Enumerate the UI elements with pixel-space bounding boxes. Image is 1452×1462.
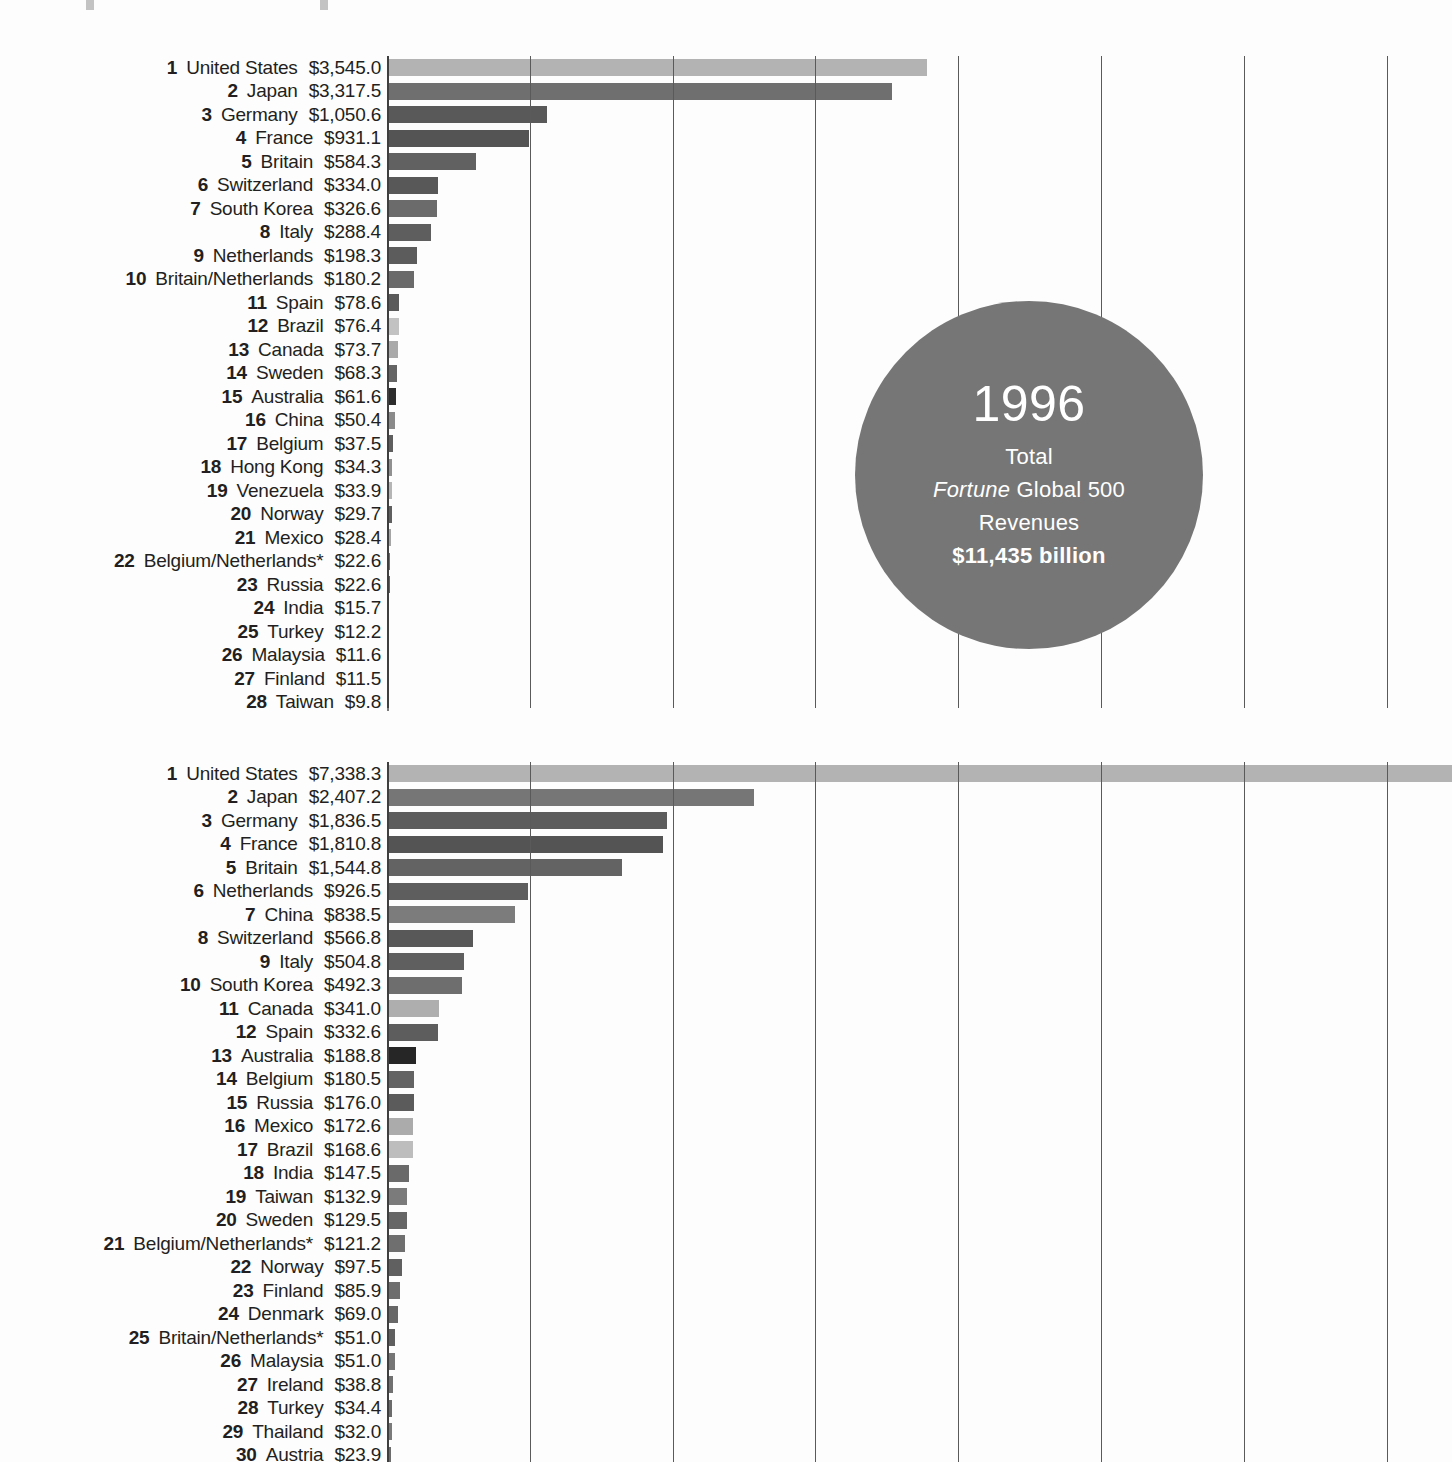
rank-number: 3 xyxy=(202,810,212,832)
country-name: Ireland xyxy=(267,1374,324,1396)
rank-number: 24 xyxy=(218,1303,239,1325)
revenue-value: $180.2 xyxy=(324,268,381,290)
bar-track xyxy=(387,197,1452,221)
bar-row: 16Mexico$172.6 xyxy=(0,1115,1452,1139)
revenue-value: $37.5 xyxy=(334,433,381,455)
country-name: Norway xyxy=(260,503,323,525)
bar-track xyxy=(387,1420,1452,1444)
value-bar xyxy=(387,1259,402,1276)
bar-row-label: 15Russia$176.0 xyxy=(0,1092,387,1114)
country-name: Denmark xyxy=(248,1303,324,1325)
bar-row: 3Germany$1,050.6 xyxy=(0,103,1452,127)
value-bar xyxy=(387,341,398,358)
country-name: Netherlands xyxy=(213,245,313,267)
bar-row-label: 11Canada$341.0 xyxy=(0,998,387,1020)
bar-row-label: 30Austria$23.9 xyxy=(0,1444,387,1462)
country-name: Britain/Netherlands xyxy=(155,268,313,290)
country-name: Britain/Netherlands* xyxy=(158,1327,323,1349)
bubble-amount-1996: $11,435 billion xyxy=(952,539,1106,572)
bar-row: 15Australia$61.6 xyxy=(0,385,1452,409)
country-name: Venezuela xyxy=(237,480,324,502)
value-bar xyxy=(387,294,399,311)
country-name: United States xyxy=(186,763,297,785)
infographic-page: 1United States$3,545.02Japan$3,317.53Ger… xyxy=(0,0,1452,1462)
bar-row: 12Spain$332.6 xyxy=(0,1021,1452,1045)
rank-number: 27 xyxy=(237,1374,258,1396)
rank-number: 27 xyxy=(234,668,255,690)
value-bar xyxy=(387,765,1452,782)
revenue-value: $97.5 xyxy=(334,1256,381,1278)
revenue-value: $172.6 xyxy=(324,1115,381,1137)
rank-number: 15 xyxy=(222,386,243,408)
bar-row-label: 26Malaysia$51.0 xyxy=(0,1350,387,1372)
bar-row: 4France$931.1 xyxy=(0,127,1452,151)
value-bar xyxy=(387,1024,438,1041)
revenue-value: $32.0 xyxy=(334,1421,381,1443)
revenue-value: $61.6 xyxy=(334,386,381,408)
revenue-value: $566.8 xyxy=(324,927,381,949)
value-bar xyxy=(387,1306,398,1323)
bar-track xyxy=(387,950,1452,974)
bar-row: 14Belgium$180.5 xyxy=(0,1068,1452,1092)
revenue-value: $334.0 xyxy=(324,174,381,196)
rank-number: 28 xyxy=(238,1397,259,1419)
value-bar xyxy=(387,600,389,617)
revenue-value: $3,545.0 xyxy=(309,57,381,79)
bar-track xyxy=(387,1397,1452,1421)
bar-row-label: 27Finland$11.5 xyxy=(0,668,387,690)
rank-number: 13 xyxy=(228,339,249,361)
revenue-value: $38.8 xyxy=(334,1374,381,1396)
country-name: Russia xyxy=(267,574,324,596)
bar-row-label: 9Italy$504.8 xyxy=(0,951,387,973)
bar-row-label: 22Belgium/Netherlands*$22.6 xyxy=(0,550,387,572)
bar-row: 30Austria$23.9 xyxy=(0,1444,1452,1462)
value-bar xyxy=(387,977,462,994)
bar-track xyxy=(387,150,1452,174)
bar-track xyxy=(387,1326,1452,1350)
bar-row-label: 25Turkey$12.2 xyxy=(0,621,387,643)
bar-row: 16China$50.4 xyxy=(0,409,1452,433)
bar-row-label: 23Finland$85.9 xyxy=(0,1280,387,1302)
revenue-value: $33.9 xyxy=(334,480,381,502)
bar-row: 27Finland$11.5 xyxy=(0,667,1452,691)
bar-track xyxy=(387,762,1452,786)
bar-track xyxy=(387,268,1452,292)
bar-row-label: 19Taiwan$132.9 xyxy=(0,1186,387,1208)
bar-track xyxy=(387,1021,1452,1045)
value-bar xyxy=(387,576,390,593)
bar-row: 12Brazil$76.4 xyxy=(0,315,1452,339)
rank-number: 30 xyxy=(236,1444,257,1462)
bar-row: 7South Korea$326.6 xyxy=(0,197,1452,221)
rank-number: 1 xyxy=(167,763,177,785)
bar-track xyxy=(387,221,1452,245)
value-bar xyxy=(387,1353,395,1370)
bar-row-label: 13Canada$73.7 xyxy=(0,339,387,361)
total-bubble-1996: 1996 Total Fortune Global 500 Revenues $… xyxy=(855,301,1203,649)
bar-row-label: 10South Korea$492.3 xyxy=(0,974,387,996)
value-bar xyxy=(387,459,392,476)
bar-track xyxy=(387,244,1452,268)
revenue-value: $28.4 xyxy=(334,527,381,549)
bar-track xyxy=(387,667,1452,691)
bar-track xyxy=(387,1256,1452,1280)
bar-row-label: 16Mexico$172.6 xyxy=(0,1115,387,1137)
bar-row: 13Canada$73.7 xyxy=(0,338,1452,362)
rank-number: 10 xyxy=(126,268,147,290)
value-bar xyxy=(387,247,417,264)
rank-number: 26 xyxy=(220,1350,241,1372)
country-name: Sweden xyxy=(256,362,323,384)
revenue-value: $3,317.5 xyxy=(309,80,381,102)
value-bar xyxy=(387,153,476,170)
revenue-value: $50.4 xyxy=(334,409,381,431)
bar-row: 18India$147.5 xyxy=(0,1162,1452,1186)
country-name: India xyxy=(273,1162,313,1184)
country-name: Sweden xyxy=(246,1209,313,1231)
bar-track xyxy=(387,1279,1452,1303)
value-bar xyxy=(387,1423,392,1440)
revenue-value: $504.8 xyxy=(324,951,381,973)
bar-row-label: 28Turkey$34.4 xyxy=(0,1397,387,1419)
rank-number: 16 xyxy=(224,1115,245,1137)
country-name: Belgium/Netherlands* xyxy=(133,1233,313,1255)
bar-track xyxy=(387,786,1452,810)
value-bar xyxy=(387,106,547,123)
